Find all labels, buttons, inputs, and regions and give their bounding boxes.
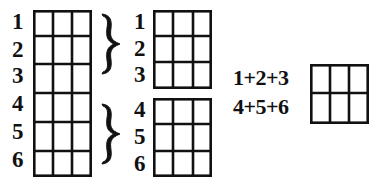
middle-top-row-label-1: 1 xyxy=(134,10,146,33)
left-row-label-1: 1 xyxy=(12,10,24,33)
middle-top-row-label-3: 3 xyxy=(134,63,146,86)
left-grid-6x3 xyxy=(33,10,92,177)
left-row-label-6: 6 xyxy=(12,148,24,171)
middle-bottom-grid-3x3 xyxy=(153,98,212,177)
middle-bottom-row-label-5: 5 xyxy=(134,125,146,148)
middle-bottom-row-label-6: 6 xyxy=(134,152,146,175)
left-row-label-2: 2 xyxy=(12,38,24,61)
brace-icon-upper xyxy=(100,12,122,76)
middle-top-grid-3x3 xyxy=(153,10,212,89)
middle-bottom-row-label-4: 4 xyxy=(134,98,146,121)
middle-top-row-label-2: 2 xyxy=(134,37,146,60)
left-row-label-5: 5 xyxy=(12,120,24,143)
left-row-label-4: 4 xyxy=(12,92,24,115)
right-row-label-sum-1: 1+2+3 xyxy=(233,67,289,89)
right-grid-2x3 xyxy=(310,64,369,124)
left-row-label-3: 3 xyxy=(12,64,24,87)
grid-merge-diagram: 1 2 3 4 5 6 1 2 3 xyxy=(0,0,382,188)
right-row-label-sum-2: 4+5+6 xyxy=(233,96,289,118)
brace-icon-lower xyxy=(100,102,122,166)
